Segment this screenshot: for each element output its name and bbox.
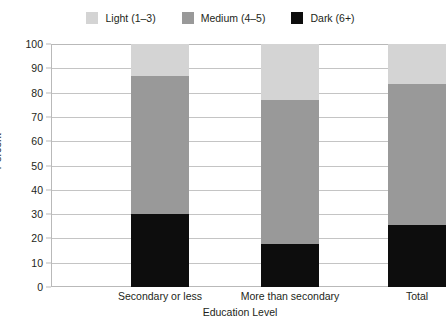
legend-item-label: Medium (4–5): [201, 13, 266, 24]
plot-area: [51, 44, 429, 287]
gridline: [52, 263, 428, 264]
gridline: [52, 68, 428, 69]
gridline: [52, 190, 428, 191]
gridline: [52, 117, 428, 118]
x-tick-label: Total: [406, 291, 428, 302]
y-tick-label: 20: [31, 233, 43, 244]
legend-swatch-medium: [182, 12, 194, 24]
y-tick-label: 60: [31, 136, 43, 147]
x-tick-label: Secondary or less: [118, 291, 202, 302]
y-tick-label: 90: [31, 63, 43, 74]
y-tick-label: 80: [31, 87, 43, 98]
y-tick-label: 50: [31, 160, 43, 171]
gridline: [52, 141, 428, 142]
gridline: [52, 238, 428, 239]
gridline: [52, 214, 428, 215]
legend-swatch-dark: [291, 12, 303, 24]
gridline: [52, 166, 428, 167]
legend-item[interactable]: Medium (4–5): [182, 12, 266, 24]
y-tick-label: 30: [31, 209, 43, 220]
x-tick-label: More than secondary: [241, 291, 340, 302]
y-tick-label: 40: [31, 185, 43, 196]
legend-item[interactable]: Light (1–3): [86, 12, 155, 24]
y-axis-title: Percent: [0, 133, 2, 169]
y-tick-label: 70: [31, 112, 43, 123]
legend-item-label: Light (1–3): [105, 13, 155, 24]
legend-item-label: Dark (6+): [310, 13, 354, 24]
y-tick-label: 10: [31, 257, 43, 268]
y-tick-label: 0: [37, 282, 43, 293]
legend-swatch-light: [86, 12, 98, 24]
chart-legend: Light (1–3)Medium (4–5)Dark (6+): [0, 12, 441, 24]
x-axis: Secondary or lessMore than secondaryTota…: [51, 291, 429, 307]
gridlines: [52, 45, 428, 286]
gridline: [52, 93, 428, 94]
legend-item[interactable]: Dark (6+): [291, 12, 354, 24]
y-axis: 0102030405060708090100: [0, 44, 51, 287]
y-tick-label: 100: [25, 39, 43, 50]
x-axis-title: Education Level: [51, 307, 429, 318]
